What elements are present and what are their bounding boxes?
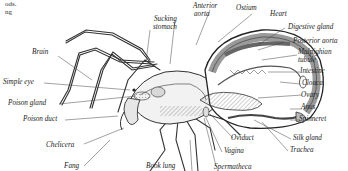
label-ostium: Ostium [236, 5, 257, 13]
label-posterior-aorta: Posterior aorta [293, 38, 338, 46]
label-simple-eye: Simple eye [3, 79, 34, 87]
label-digestive-gland: Digestive gland [288, 24, 333, 32]
label-anus: Anus [301, 104, 315, 112]
label-intestine: Intestine [300, 68, 325, 76]
label-spermatheca: Spermatheca [214, 164, 252, 171]
label-trachea: Trachea [290, 147, 314, 155]
label-poison-gland: Poison gland [8, 100, 46, 108]
label-brain: Brain [32, 49, 48, 57]
label-oviduct: Oviduct [231, 135, 254, 143]
label-fang: Fang [64, 163, 79, 171]
label-cloaca: Cloaca [302, 80, 323, 88]
label-malpighian-tubule-line-2: tubule [298, 57, 316, 65]
label-chelicera: Chelicera [46, 142, 74, 150]
spider-anatomy-diagram: ods. ng [0, 0, 348, 171]
label-spinneret: Spinneret [299, 116, 326, 124]
label-heart: Heart [270, 11, 287, 19]
label-sucking-stomach-line-2: stomach [153, 24, 177, 32]
label-ovary: Ovary [301, 92, 319, 100]
label-vagina: Vagina [224, 148, 244, 156]
label-poison-duct: Poison duct [23, 116, 57, 124]
label-silk-gland: Silk gland [293, 135, 322, 143]
label-book-lung: Book lung [146, 163, 175, 171]
label-anterior-aorta-line-2: aorta [194, 11, 210, 19]
